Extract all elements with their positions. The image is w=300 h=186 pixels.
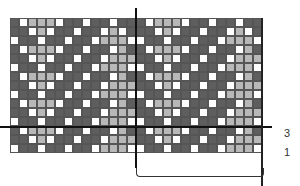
grid-cell bbox=[172, 144, 181, 153]
grid-cell bbox=[145, 135, 154, 144]
grid-cell bbox=[154, 90, 163, 99]
grid-cell bbox=[199, 27, 208, 36]
grid-cell bbox=[100, 144, 109, 153]
grid-cell bbox=[109, 54, 118, 63]
grid-cell bbox=[172, 135, 181, 144]
grid-cell bbox=[208, 81, 217, 90]
grid-cell bbox=[109, 36, 118, 45]
grid-cell bbox=[46, 27, 55, 36]
grid-cell bbox=[10, 18, 19, 27]
grid-cell bbox=[154, 81, 163, 90]
grid-cell bbox=[55, 54, 64, 63]
grid-cell bbox=[235, 135, 244, 144]
grid-cell bbox=[91, 54, 100, 63]
grid-cell bbox=[64, 54, 73, 63]
grid-cell bbox=[19, 27, 28, 36]
grid-cell bbox=[181, 81, 190, 90]
grid-cell bbox=[136, 99, 145, 108]
grid-cell bbox=[172, 81, 181, 90]
grid-cell bbox=[226, 81, 235, 90]
grid-cell bbox=[73, 18, 82, 27]
row-label-1: 1 bbox=[284, 146, 290, 158]
grid-cell bbox=[73, 99, 82, 108]
repeat-divider-vertical bbox=[135, 8, 137, 168]
grid-cell bbox=[199, 108, 208, 117]
grid-cell bbox=[82, 54, 91, 63]
grid-cell bbox=[172, 63, 181, 72]
grid-cell bbox=[64, 117, 73, 126]
grid-cell bbox=[82, 108, 91, 117]
grid-cell bbox=[244, 108, 253, 117]
grid-cell bbox=[145, 27, 154, 36]
grid-cell bbox=[46, 99, 55, 108]
grid-cell bbox=[109, 135, 118, 144]
grid-cell bbox=[46, 18, 55, 27]
grid-cell bbox=[208, 45, 217, 54]
grid-cell bbox=[91, 27, 100, 36]
grid-cell bbox=[190, 27, 199, 36]
grid-cell bbox=[172, 72, 181, 81]
grid-cell bbox=[37, 63, 46, 72]
grid-cell bbox=[73, 72, 82, 81]
grid-cell bbox=[199, 144, 208, 153]
grid-cell bbox=[55, 36, 64, 45]
grid-cell bbox=[136, 27, 145, 36]
grid-cell bbox=[181, 99, 190, 108]
grid-cell bbox=[226, 63, 235, 72]
grid-cell bbox=[19, 63, 28, 72]
grid-cell bbox=[109, 99, 118, 108]
grid-cell bbox=[37, 108, 46, 117]
grid-cell bbox=[244, 99, 253, 108]
grid-cell bbox=[226, 45, 235, 54]
grid-cell bbox=[235, 27, 244, 36]
grid-cell bbox=[208, 72, 217, 81]
grid-cell bbox=[64, 27, 73, 36]
grid-cell bbox=[19, 144, 28, 153]
grid-cell bbox=[190, 72, 199, 81]
grid-cell bbox=[118, 108, 127, 117]
grid-cell bbox=[226, 36, 235, 45]
grid-cell bbox=[172, 90, 181, 99]
grid-cell bbox=[37, 81, 46, 90]
grid-cell bbox=[163, 99, 172, 108]
grid-cell bbox=[37, 144, 46, 153]
grid-cell bbox=[154, 18, 163, 27]
grid-cell bbox=[28, 45, 37, 54]
grid-cell bbox=[19, 36, 28, 45]
grid-cell bbox=[136, 72, 145, 81]
grid-cell bbox=[163, 144, 172, 153]
grid-cell bbox=[55, 18, 64, 27]
grid-cell bbox=[235, 90, 244, 99]
grid-cell bbox=[235, 108, 244, 117]
grid-cell bbox=[82, 63, 91, 72]
grid-cell bbox=[91, 108, 100, 117]
grid-cell bbox=[172, 117, 181, 126]
grid-cell bbox=[199, 81, 208, 90]
grid-cell bbox=[73, 63, 82, 72]
grid-cell bbox=[118, 144, 127, 153]
grid-cell bbox=[154, 63, 163, 72]
grid-cell bbox=[118, 117, 127, 126]
grid-cell bbox=[181, 36, 190, 45]
grid-cell bbox=[190, 63, 199, 72]
grid-cell bbox=[10, 144, 19, 153]
grid-cell bbox=[181, 90, 190, 99]
grid-cell bbox=[244, 72, 253, 81]
grid-cell bbox=[199, 63, 208, 72]
grid-cell bbox=[235, 144, 244, 153]
grid-cell bbox=[217, 81, 226, 90]
grid-cell bbox=[28, 63, 37, 72]
grid-cell bbox=[109, 45, 118, 54]
grid-cell bbox=[64, 135, 73, 144]
grid-cell bbox=[73, 117, 82, 126]
grid-cell bbox=[55, 90, 64, 99]
grid-cell bbox=[100, 45, 109, 54]
grid-cell bbox=[118, 54, 127, 63]
grid-cell bbox=[118, 45, 127, 54]
grid-cell bbox=[244, 45, 253, 54]
grid-cell bbox=[154, 54, 163, 63]
grid-cell bbox=[163, 135, 172, 144]
grid-cell bbox=[73, 36, 82, 45]
grid-cell bbox=[217, 36, 226, 45]
grid-cell bbox=[118, 72, 127, 81]
